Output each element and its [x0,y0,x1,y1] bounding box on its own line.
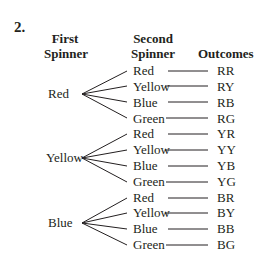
outcome-label: YR [217,127,235,140]
first-spinner-blue: Blue [48,216,73,229]
second-spinner-label: Yellow [133,80,170,93]
outcome-label: RY [217,80,234,93]
second-spinner-label: Yellow [133,206,170,219]
second-spinner-label: Blue [133,222,158,235]
second-spinner-label: Red [133,64,154,77]
second-spinner-label: Yellow [133,143,170,156]
outcome-label: RG [217,112,235,125]
second-spinner-label: Blue [133,159,158,172]
outcome-label: YG [217,175,236,188]
outcome-label: BR [217,191,234,204]
second-spinner-label: Green [133,238,165,251]
outcome-label: RR [217,64,234,77]
outcome-label: RB [217,96,234,109]
outcome-label: YB [217,159,235,172]
second-spinner-label: Blue [133,96,158,109]
second-spinner-label: Green [133,175,165,188]
second-spinner-label: Red [133,191,154,204]
first-spinner-red: Red [48,87,69,100]
outcome-label: YY [217,143,236,156]
outcome-label: BG [217,238,235,251]
second-spinner-label: Red [133,127,154,140]
outcome-label: BY [217,206,235,219]
outcome-label: BB [217,222,234,235]
first-spinner-yellow: Yellow [46,151,83,164]
second-spinner-label: Green [133,112,165,125]
